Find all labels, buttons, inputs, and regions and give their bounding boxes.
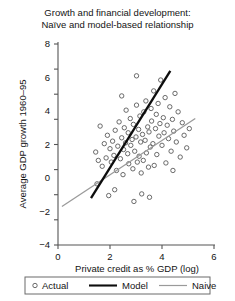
data-point [102, 141, 106, 145]
data-point [98, 124, 102, 128]
data-point [171, 168, 175, 172]
data-point [120, 136, 124, 140]
x-axis-title: Private credit as % GDP (log) [75, 263, 199, 274]
data-point [139, 171, 143, 175]
y-axis-ticks [54, 44, 58, 245]
data-point [182, 133, 186, 137]
data-point [154, 112, 158, 116]
data-point [160, 143, 164, 147]
data-point [149, 106, 153, 110]
data-point [105, 133, 109, 137]
model-trend-line [91, 71, 170, 198]
data-point [185, 146, 189, 150]
chart-figure: Growth and financial development:Naïve a… [0, 0, 235, 301]
y-tick-label-0: 0 [45, 172, 50, 183]
data-point [120, 94, 124, 98]
x-tick-label-4: 4 [159, 251, 164, 262]
data-point [121, 172, 125, 176]
data-point [146, 125, 150, 129]
x-axis-ticks [58, 245, 214, 249]
data-point [124, 108, 128, 112]
data-point [134, 74, 138, 78]
data-point [96, 158, 100, 162]
data-point [132, 199, 136, 203]
data-point [113, 128, 117, 132]
x-tick-label-2: 2 [107, 251, 112, 262]
y-tick-label-6: 6 [45, 72, 50, 83]
legend-label-model: Model [122, 280, 148, 291]
naive-trend-line [62, 119, 195, 207]
scatter-plot: −4−202468 0 2 4 6 Private credit as % GD… [0, 0, 235, 301]
data-point [147, 130, 151, 134]
data-point [138, 140, 142, 144]
y-tick-labels-lower: −4−202468 [39, 38, 50, 250]
naive-line [62, 119, 195, 207]
data-point [122, 126, 126, 130]
data-point [116, 144, 120, 148]
data-point [133, 149, 137, 153]
data-point [125, 152, 129, 156]
data-point [173, 91, 177, 95]
data-point [162, 131, 166, 135]
x-tick-label-6: 6 [211, 251, 216, 262]
data-point [129, 143, 133, 147]
y-tick-label--4: −4 [39, 239, 50, 250]
data-point-group [94, 74, 192, 204]
data-point [170, 117, 174, 121]
data-point [153, 126, 157, 130]
y-axis-title: Average GDP growth 1960–95 [17, 79, 28, 208]
y-tick-label-4: 4 [45, 105, 50, 116]
data-point [159, 78, 163, 82]
data-point [168, 105, 172, 109]
data-point [135, 160, 139, 164]
data-point [100, 164, 104, 168]
y-tick-label--2: −2 [39, 206, 50, 217]
data-point [131, 167, 135, 171]
data-point [143, 138, 147, 142]
data-point [134, 103, 138, 107]
data-point [187, 126, 191, 130]
data-point [152, 163, 156, 167]
x-tick-label-0: 0 [55, 251, 60, 262]
data-point [107, 193, 111, 197]
data-point [155, 152, 159, 156]
data-point [169, 149, 173, 153]
data-point [158, 121, 162, 125]
data-point [136, 127, 140, 131]
data-point [163, 95, 167, 99]
legend-marker-actual-icon [33, 283, 37, 287]
data-point [165, 123, 169, 127]
data-point [117, 120, 121, 124]
data-point [112, 188, 116, 192]
data-point [144, 99, 148, 103]
data-point [151, 89, 155, 93]
data-point [140, 192, 144, 196]
chart-legend: Actual Model Naive [25, 277, 216, 294]
data-point [94, 150, 98, 154]
y-tick-label-8: 8 [45, 38, 50, 49]
legend-label-actual: Actual [42, 280, 68, 291]
data-point [157, 134, 161, 138]
data-point [141, 158, 145, 162]
data-point [134, 135, 138, 139]
data-point [180, 121, 184, 125]
model-line [91, 71, 170, 198]
data-point [128, 116, 132, 120]
y-tick-label-2: 2 [45, 139, 50, 150]
data-point [161, 116, 165, 120]
data-point [164, 161, 168, 165]
data-point [149, 119, 153, 123]
data-point [176, 110, 180, 114]
data-point [174, 140, 178, 144]
data-point [104, 156, 108, 160]
data-point [140, 132, 144, 136]
data-point [147, 195, 151, 199]
data-point [108, 146, 112, 150]
legend-label-naive: Naive [192, 280, 216, 291]
data-point [146, 165, 150, 169]
data-point [118, 157, 122, 161]
data-point [178, 155, 182, 159]
data-point [156, 101, 160, 105]
data-point [110, 139, 114, 143]
